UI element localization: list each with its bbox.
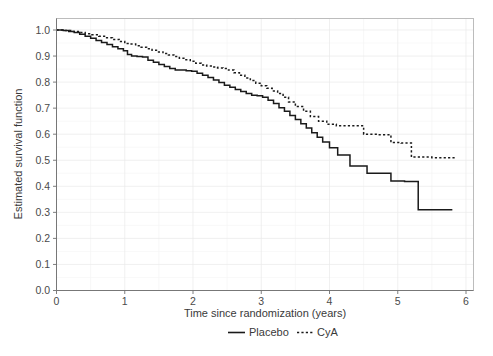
y-tick-label: 0.4 bbox=[35, 180, 50, 192]
y-axis-title: Estimated survival function bbox=[12, 89, 24, 220]
x-tick-label: 2 bbox=[190, 295, 196, 307]
y-tick-label: 0.7 bbox=[35, 102, 50, 114]
survival-chart: 0.00.10.20.30.40.50.60.70.80.91.0 012345… bbox=[0, 0, 493, 356]
y-tick-label: 0.6 bbox=[35, 128, 50, 140]
x-tick-label: 4 bbox=[327, 295, 333, 307]
y-tick-label: 0.8 bbox=[35, 76, 50, 88]
minor-gridlines bbox=[57, 19, 474, 291]
chart-legend: PlaceboCyA bbox=[228, 326, 338, 338]
y-axis-ticks: 0.00.10.20.30.40.50.60.70.80.91.0 bbox=[35, 24, 56, 297]
x-tick-label: 0 bbox=[54, 295, 60, 307]
y-tick-label: 0.0 bbox=[35, 284, 50, 296]
major-gridlines bbox=[57, 19, 474, 291]
legend-label-cya: CyA bbox=[317, 326, 338, 338]
x-tick-label: 1 bbox=[122, 295, 128, 307]
x-axis-title: Time since randomization (years) bbox=[184, 307, 346, 319]
x-tick-label: 3 bbox=[258, 295, 264, 307]
survival-curve-cya bbox=[57, 30, 456, 158]
y-tick-label: 0.9 bbox=[35, 50, 50, 62]
y-tick-label: 0.5 bbox=[35, 154, 50, 166]
curve-group bbox=[57, 30, 456, 210]
y-tick-label: 0.1 bbox=[35, 258, 50, 270]
survival-plot-figure: 0.00.10.20.30.40.50.60.70.80.91.0 012345… bbox=[0, 0, 493, 356]
y-tick-label: 1.0 bbox=[35, 24, 50, 36]
y-tick-label: 0.2 bbox=[35, 232, 50, 244]
plot-panel-border bbox=[57, 19, 474, 291]
legend-label-placebo: Placebo bbox=[249, 326, 289, 338]
survival-curve-placebo bbox=[57, 30, 453, 210]
x-axis-ticks: 0123456 bbox=[54, 291, 470, 308]
x-tick-label: 5 bbox=[395, 295, 401, 307]
y-tick-label: 0.3 bbox=[35, 206, 50, 218]
x-tick-label: 6 bbox=[463, 295, 469, 307]
